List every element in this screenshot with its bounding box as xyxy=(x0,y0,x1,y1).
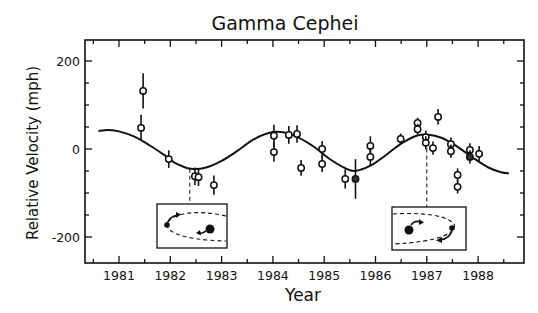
inset-connectors xyxy=(190,134,427,208)
data-point xyxy=(430,142,436,155)
data-point xyxy=(298,160,304,176)
x-tick-label: 1981 xyxy=(103,268,135,283)
x-tick-label: 1983 xyxy=(206,268,238,283)
y-axis-label: Relative Velocity (mph) xyxy=(24,66,42,240)
y-tick-label: 200 xyxy=(56,54,80,69)
data-point xyxy=(454,168,460,181)
x-tick-label: 1984 xyxy=(257,268,289,283)
y-axis-tick-labels: -2000200 xyxy=(52,54,80,245)
x-tick-label: 1982 xyxy=(154,268,186,283)
x-axis-label: Year xyxy=(284,285,321,305)
orbit-inset-2 xyxy=(392,207,466,250)
planet-icon xyxy=(449,225,455,231)
star-icon xyxy=(405,226,414,235)
data-point xyxy=(211,175,217,194)
data-point xyxy=(435,109,441,125)
data-point xyxy=(352,159,358,199)
data-point xyxy=(271,142,277,161)
x-tick-label: 1987 xyxy=(411,268,443,283)
radial-velocity-chart: Gamma Cephei 198119821983198419851986198… xyxy=(0,0,538,313)
x-axis-tick-labels: 19811982198319841985198619871988 xyxy=(103,268,494,283)
data-point xyxy=(294,125,300,143)
y-tick-label: -200 xyxy=(52,230,80,245)
data-point xyxy=(166,150,172,168)
x-tick-label: 1985 xyxy=(308,268,340,283)
x-tick-label: 1988 xyxy=(462,268,494,283)
data-point xyxy=(454,180,460,193)
orbit-inset-1 xyxy=(157,204,227,248)
data-point xyxy=(138,115,144,141)
y-tick-label: 0 xyxy=(72,142,80,157)
data-point xyxy=(195,168,201,186)
observation-points xyxy=(138,73,482,198)
star-icon xyxy=(206,225,215,234)
x-tick-label: 1986 xyxy=(360,268,392,283)
data-point xyxy=(319,156,325,172)
data-point xyxy=(286,126,292,144)
data-point xyxy=(342,169,348,188)
data-point xyxy=(140,73,146,108)
chart-title: Gamma Cephei xyxy=(211,12,358,34)
data-point xyxy=(367,148,373,166)
